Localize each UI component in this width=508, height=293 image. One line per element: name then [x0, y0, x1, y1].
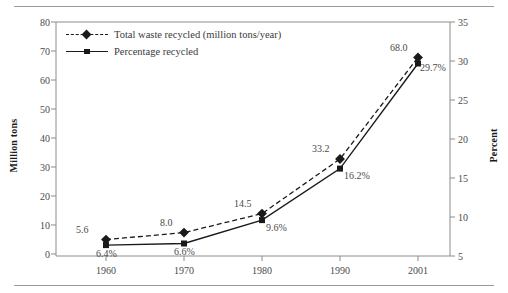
point-label-pct-1960: 6.4% — [96, 248, 117, 259]
point-label-total-2001: 68.0 — [390, 42, 408, 53]
point-label-pct-1980: 9.6% — [266, 222, 287, 233]
legend-item-percentage: Percentage recycled — [66, 43, 281, 60]
series-total-waste-markers — [101, 52, 423, 244]
series-percentage-markers — [103, 61, 421, 249]
recycling-chart-figure: Million tons Percent 80 70 60 50 40 30 2… — [0, 0, 508, 293]
left-axis-ticks — [51, 22, 56, 254]
legend-label-total-waste: Total waste recycled (million tons/year) — [114, 29, 281, 40]
legend-label-percentage: Percentage recycled — [114, 46, 198, 57]
point-label-pct-2001: 29.7% — [420, 62, 446, 73]
point-label-total-1970: 8.0 — [160, 217, 173, 228]
legend-item-total-waste: Total waste recycled (million tons/year) — [66, 26, 281, 43]
x-axis-ticks — [106, 256, 418, 261]
point-label-total-1990: 33.2 — [312, 143, 330, 154]
chart-legend: Total waste recycled (million tons/year)… — [66, 26, 281, 60]
point-label-pct-1990: 16.2% — [344, 170, 370, 181]
legend-key-dashed-diamond-icon — [66, 30, 108, 40]
right-axis-ticks — [450, 22, 455, 256]
legend-key-solid-square-icon — [66, 47, 108, 57]
point-label-total-1980: 14.5 — [234, 198, 252, 209]
point-label-total-1960: 5.6 — [76, 224, 89, 235]
point-label-pct-1970: 6.6% — [174, 246, 195, 257]
